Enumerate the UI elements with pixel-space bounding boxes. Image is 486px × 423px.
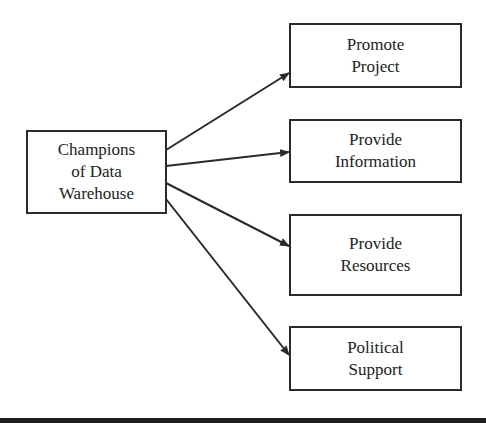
arrow-to-provide-resources xyxy=(166,183,289,246)
arrow-to-provide-information xyxy=(166,152,289,166)
target-label: Promote Project xyxy=(347,34,405,78)
target-box-political-support: Political Support xyxy=(289,326,462,391)
bottom-rule xyxy=(0,418,486,423)
target-label: Political Support xyxy=(347,337,404,381)
arrow-to-promote-project xyxy=(166,73,289,150)
target-box-provide-information: Provide Information xyxy=(289,119,462,183)
target-box-provide-resources: Provide Resources xyxy=(289,214,462,296)
source-box-champions: Champions of Data Warehouse xyxy=(26,130,167,214)
target-label: Provide Information xyxy=(335,129,416,173)
target-box-promote-project: Promote Project xyxy=(289,23,462,88)
arrow-to-political-support xyxy=(166,199,289,355)
target-label: Provide Resources xyxy=(341,233,411,277)
source-label: Champions of Data Warehouse xyxy=(58,139,135,205)
